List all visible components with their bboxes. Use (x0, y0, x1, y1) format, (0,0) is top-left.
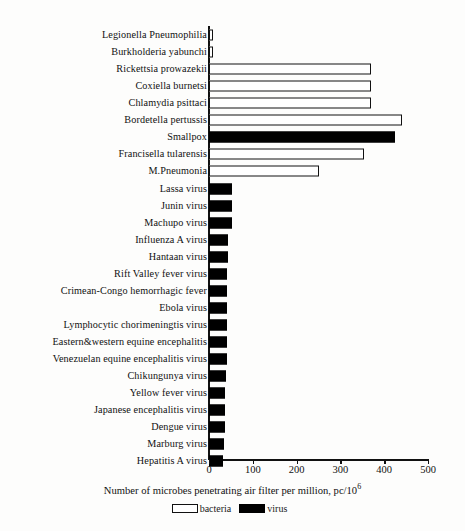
category-label: Eastern&western equine encephalitis (52, 336, 207, 347)
bar-row: Machupo virus (0, 214, 465, 231)
bar-virus (209, 302, 227, 313)
bar-virus (209, 234, 228, 245)
category-label: Rickettsia prowazekii (116, 63, 207, 74)
x-tick-label: 0 (206, 464, 211, 475)
legend-label-virus: virus (267, 503, 287, 514)
bar-row: Chikungunya virus (0, 368, 465, 385)
category-label: Francisella tularensis (119, 149, 208, 160)
bar-virus (209, 285, 227, 296)
bar-virus (209, 319, 227, 330)
x-axis-title: Number of microbes penetrating air filte… (0, 482, 465, 496)
bar-bacteria (209, 149, 364, 160)
category-label: Burkholderia yabunchi (111, 46, 207, 57)
category-label: Yellow fever virus (130, 387, 207, 398)
bar-row: Lassa virus (0, 180, 465, 197)
bar-virus (209, 183, 232, 194)
bar-row: Burkholderia yabunchi (0, 44, 465, 61)
bar-row: Lymphocytic chorimeningtis virus (0, 316, 465, 333)
category-label: Lymphocytic chorimeningtis virus (63, 319, 207, 330)
bar-bacteria (209, 64, 371, 75)
category-label: Junin virus (161, 200, 207, 211)
bar-virus (209, 200, 232, 211)
bar-virus (209, 422, 225, 433)
category-label: Chikungunya virus (127, 370, 207, 381)
bar-virus (209, 217, 232, 228)
bar-row: Junin virus (0, 197, 465, 214)
category-label: Marburg virus (147, 439, 207, 450)
bar-row: Chlamydia psittaci (0, 95, 465, 112)
category-label: Coxiella burnetsi (135, 81, 207, 92)
x-tick-label: 500 (420, 464, 436, 475)
category-label: Crimean-Congo hemorrhagic fever (61, 285, 207, 296)
bar-virus (209, 132, 395, 143)
category-label: Influenza A virus (135, 234, 207, 245)
bar-row: Japanese encephalitis virus (0, 402, 465, 419)
category-label: M.Pneumonia (148, 166, 207, 177)
bar-bacteria (209, 30, 213, 41)
category-label: Lassa virus (160, 183, 207, 194)
bar-row: Rickettsia prowazekii (0, 61, 465, 78)
bar-bacteria (209, 47, 213, 58)
bar-virus (209, 439, 224, 450)
bar-row: Eastern&western equine encephalitis (0, 333, 465, 350)
legend-label-bacteria: bacteria (200, 503, 232, 514)
category-label: Dengue virus (151, 422, 207, 433)
category-label: Ebola virus (159, 302, 207, 313)
legend-swatch-bacteria (172, 504, 198, 513)
bar-row: Yellow fever virus (0, 385, 465, 402)
bar-row: Rift Valley fever virus (0, 265, 465, 282)
bar-row: Hepatitis A virus (0, 453, 465, 470)
bar-virus (209, 405, 225, 416)
category-label: Rift Valley fever virus (114, 268, 207, 279)
x-tick-label: 300 (333, 464, 349, 475)
x-tick-label: 100 (245, 464, 261, 475)
bar-bacteria (209, 81, 371, 92)
bar-row: M.Pneumonia (0, 163, 465, 180)
bar-row: Bordetella pertussis (0, 112, 465, 129)
bar-bacteria (209, 166, 319, 177)
bar-virus (209, 251, 228, 262)
category-label: Japanese encephalitis virus (94, 404, 207, 415)
category-label: Hantaan virus (149, 251, 207, 262)
x-tick-label: 200 (289, 464, 305, 475)
x-axis-title-exponent: 6 (357, 482, 361, 491)
bar-virus (209, 388, 225, 399)
x-tick-label: 400 (376, 464, 392, 475)
bar-row: Legionella Pneumophilia (0, 27, 465, 44)
bar-bacteria (209, 115, 402, 126)
bar-virus (209, 371, 226, 382)
bar-row: Smallpox (0, 129, 465, 146)
x-axis-title-text: Number of microbes penetrating air filte… (104, 485, 357, 496)
category-label: Smallpox (167, 132, 207, 143)
bar-row: Dengue virus (0, 419, 465, 436)
category-label: Machupo virus (144, 217, 207, 228)
category-label: Hepatitis A virus (137, 456, 207, 467)
bar-row: Marburg virus (0, 436, 465, 453)
bar-row: Francisella tularensis (0, 146, 465, 163)
category-label: Bordetella pertussis (124, 115, 207, 126)
bar-virus (209, 268, 227, 279)
bar-row: Crimean-Congo hemorrhagic fever (0, 282, 465, 299)
category-label: Chlamydia psittaci (129, 98, 207, 109)
bar-row: Coxiella burnetsi (0, 78, 465, 95)
bar-virus (209, 336, 227, 347)
bar-row: Hantaan virus (0, 248, 465, 265)
bar-virus (209, 354, 227, 365)
bar-bacteria (209, 98, 371, 109)
category-label: Legionella Pneumophilia (102, 29, 207, 40)
legend-swatch-virus (239, 504, 265, 513)
bar-row: Venezuelan equine encephalitis virus (0, 350, 465, 367)
chart-legend: bacteria virus (0, 503, 465, 514)
microbe-filter-penetration-bar-chart: Legionella PneumophiliaBurkholderia yabu… (0, 0, 465, 531)
bar-row: Influenza A virus (0, 231, 465, 248)
category-label: Venezuelan equine encephalitis virus (53, 353, 207, 364)
bar-row: Ebola virus (0, 299, 465, 316)
